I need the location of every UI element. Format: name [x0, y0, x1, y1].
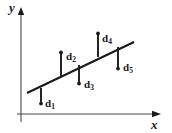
residual-point-d2 [59, 51, 63, 55]
residual-label-d5: d5 [123, 62, 133, 73]
residual-label-d2: d2 [66, 51, 76, 62]
residual-point-d3 [77, 82, 81, 86]
figure-canvas [0, 0, 172, 133]
residual-label-d1: d1 [45, 98, 55, 109]
residual-point-d5 [116, 67, 120, 71]
residual-label-d4: d4 [102, 33, 112, 44]
residual-label-d3: d3 [84, 79, 94, 90]
y-axis-label: y [9, 1, 15, 14]
x-axis-label: x [151, 118, 158, 131]
residual-point-d1 [39, 102, 43, 106]
residual-diagram-figure: y x d1 d2 d3 d4 d5 [0, 0, 172, 133]
figure-background [0, 0, 172, 133]
residual-point-d4 [96, 32, 100, 36]
